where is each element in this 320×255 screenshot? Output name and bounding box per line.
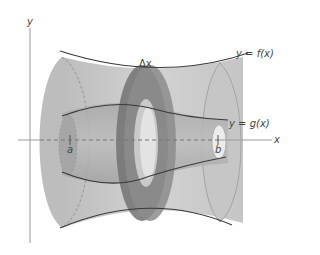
- delta-x-label: Δx: [139, 59, 152, 69]
- inner-curve-label: y = g(x): [229, 119, 270, 129]
- x-axis-label: x: [274, 135, 280, 145]
- lower-bound-label-a: a: [67, 145, 73, 155]
- left-outer-disk: [40, 57, 63, 228]
- y-axis-label: y: [27, 17, 33, 27]
- washer-inner-hole-highlight: [140, 107, 156, 179]
- upper-bound-label-b: b: [215, 145, 221, 155]
- outer-curve-label: y = f(x): [236, 49, 274, 59]
